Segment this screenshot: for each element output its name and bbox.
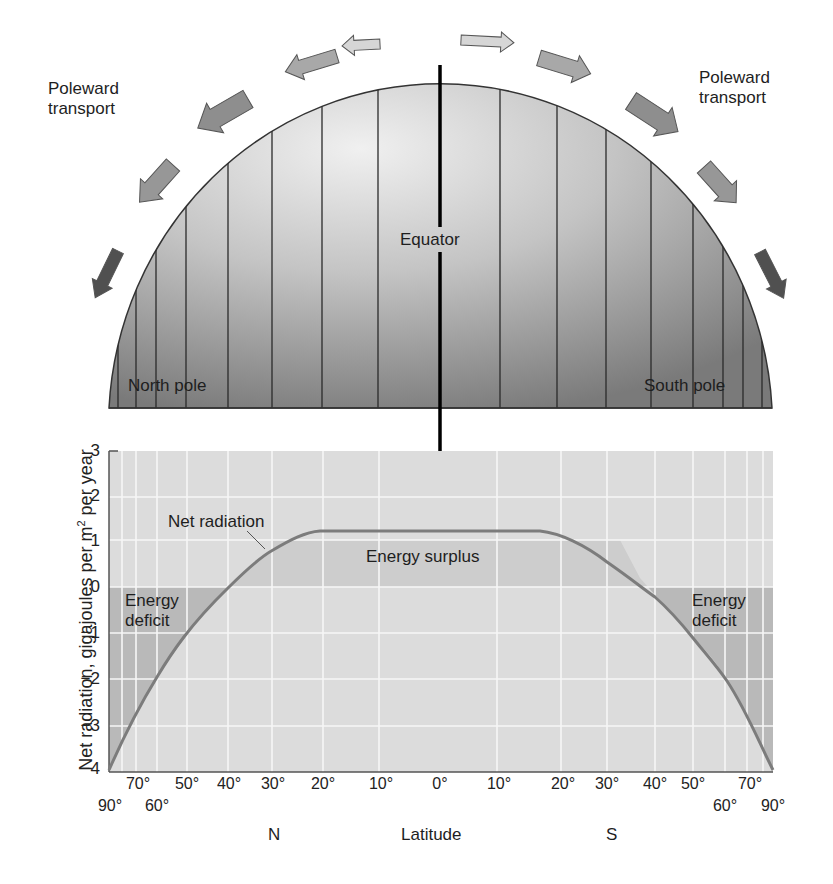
x-tick: 20° [311,775,335,793]
left-transport-line1: Poleward [48,79,119,99]
x-tick: 10° [487,775,511,793]
x-tick: 0° [432,775,447,793]
figure-graphics [0,0,833,884]
south-label: S [606,825,617,845]
equator-label: Equator [400,230,460,250]
right-transport-line1: Poleward [699,68,770,88]
y-tick: 2 [70,486,100,506]
y-tick: −3 [70,716,100,736]
x-tick: 70° [738,775,762,793]
y-axis-label-sup: 2 [75,520,87,526]
y-tick: 0 [70,577,100,597]
arrow-right-2 [535,45,595,88]
energy-surplus-label: Energy surplus [366,547,479,567]
x-tick: 50° [681,775,705,793]
x-tick: 60° [713,797,737,815]
x-axis-label: Latitude [401,825,462,845]
x-tick: 40° [643,775,667,793]
x-tick: 30° [595,775,619,793]
right-transport-line2: transport [699,88,770,108]
deficit-south-line2: deficit [692,611,746,631]
x-tick: 90° [98,797,122,815]
x-tick: 90° [761,797,785,815]
y-tick: −2 [70,669,100,689]
energy-deficit-label-north: Energy deficit [125,591,179,631]
x-tick: 30° [261,775,285,793]
arrow-left-5 [85,246,128,302]
x-tick: 70° [126,775,150,793]
left-transport-line2: transport [48,99,119,119]
x-tick: 20° [551,775,575,793]
net-radiation-chart [109,451,773,772]
arrow-right-5 [750,247,793,303]
deficit-north-line1: Energy [125,591,179,611]
energy-deficit-label-south: Energy deficit [692,591,746,631]
north-label: N [268,825,280,845]
y-tick: 1 [70,531,100,551]
arrow-left-4 [128,155,184,212]
north-pole-label: North pole [128,376,206,396]
south-pole-label: South pole [644,376,725,396]
arrow-right-3 [622,87,687,146]
arrow-right-4 [693,157,747,213]
y-tick: −1 [70,623,100,643]
deficit-north-line2: deficit [125,611,179,631]
arrow-left-3 [189,84,256,142]
energy-balance-figure: Poleward transport Poleward transport Eq… [0,0,833,884]
x-tick: 60° [145,797,169,815]
deficit-south-line1: Energy [692,591,746,611]
x-tick: 50° [175,775,199,793]
y-tick: −4 [70,759,100,779]
x-tick: 10° [369,775,393,793]
y-tick: 3 [70,441,100,461]
x-tick: 40° [217,775,241,793]
arrow-right-1 [460,30,514,53]
arrow-left-2 [282,44,341,85]
net-radiation-label: Net radiation [168,512,264,532]
right-transport-label: Poleward transport [699,68,770,108]
arrow-left-1 [342,34,381,56]
left-transport-label: Poleward transport [48,79,119,119]
